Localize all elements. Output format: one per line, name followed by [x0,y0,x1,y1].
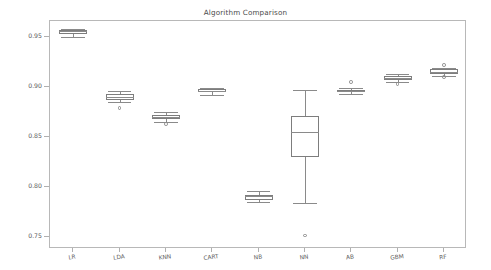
x-tick-label-lr: LR [52,252,92,263]
cap-upper [432,68,456,69]
x-tick-label-rf: RF [423,252,463,263]
x-tick-label-cart: CART [191,252,231,263]
plot-area [49,20,466,248]
y-tick-label: 0.95 [10,32,42,39]
outlier-point [442,63,446,67]
y-tick-label: 0.80 [10,182,42,189]
median-line [430,72,458,73]
x-tick-label-knn: KNN [145,252,185,263]
y-tick-label: 0.85 [10,132,42,139]
x-tick-label-ab: AB [330,252,370,263]
y-tick-label: 0.75 [10,232,42,239]
boxplot-figure: Algorithm Comparison Error 0.950.900.850… [0,0,491,270]
x-tick-label-gbm: GBM [376,252,416,263]
boxplot-rf [50,21,467,249]
outlier-point [442,75,446,79]
chart-title: Algorithm Comparison [0,8,491,17]
y-tick-label: 0.90 [10,82,42,89]
x-tick-label-nb: NB [237,252,277,263]
x-tick-label-lda: LDA [98,252,138,263]
x-tick-label-nn: NN [284,252,324,263]
